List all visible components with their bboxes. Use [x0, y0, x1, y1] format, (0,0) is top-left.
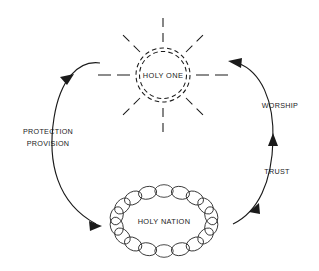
worship-trust-edge: WORSHIP TRUST	[228, 58, 298, 224]
provision-label: PROVISION	[27, 139, 70, 148]
trust-label: TRUST	[264, 167, 290, 176]
holy-nation-node: HOLY NATION	[108, 185, 220, 258]
holy-one-node: HOLY ONE	[94, 16, 232, 134]
holy-nation-label: HOLY NATION	[138, 217, 191, 226]
sun-ray-se	[186, 98, 205, 117]
sun-ray-sw	[121, 98, 140, 117]
chain-link	[155, 245, 173, 258]
diagram-canvas: HOLY ONE HOLY NATION PROTECTION PROVISIO…	[0, 0, 319, 271]
sun-ray-nw	[121, 33, 140, 52]
trust-arrowhead-mid	[268, 133, 278, 146]
worship-label: WORSHIP	[262, 101, 298, 110]
worship-trust-arc	[233, 63, 273, 224]
chain-link	[112, 195, 134, 217]
chain-link	[195, 195, 217, 217]
holy-one-label: HOLY ONE	[143, 71, 183, 80]
protection-arrowhead-lower	[89, 221, 102, 231]
trust-arrowhead-lower	[249, 203, 260, 214]
chain-link	[195, 225, 217, 247]
chain-link	[155, 185, 173, 198]
sun-ray-ne	[186, 33, 205, 52]
protection-arrowhead-upper	[60, 74, 74, 85]
protection-provision-edge: PROTECTION PROVISION	[23, 63, 102, 231]
chain-link	[112, 225, 134, 247]
worship-arrowhead-top	[228, 58, 242, 68]
protection-label: PROTECTION	[23, 127, 73, 136]
covenant-cycle-diagram: HOLY ONE HOLY NATION PROTECTION PROVISIO…	[0, 0, 319, 271]
